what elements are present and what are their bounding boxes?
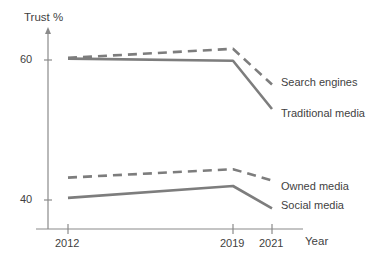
x-axis-tick-label-2012: 2012 [55,238,79,249]
y-axis [44,27,52,229]
x-axis-tick-label-2019: 2019 [220,238,244,249]
y-axis-tick-label-40: 40 [20,194,32,205]
series-line-owned-media [68,169,272,180]
x-axis-tick-label-2021: 2021 [259,238,283,249]
series-label-traditional-media: Traditional media [281,108,365,119]
series-line-social-media [68,186,272,208]
series-line-traditional-media [68,59,272,109]
series-line-search-engines [68,49,272,85]
y-axis-title: Trust % [24,12,63,24]
line-chart: Trust % 60 40 2012 2019 2021 Year Search… [0,0,368,265]
series-label-owned-media: Owned media [281,181,349,192]
series-label-search-engines: Search engines [281,77,357,88]
x-axis-title: Year [305,236,328,248]
series-label-social-media: Social media [281,200,344,211]
y-axis-tick-label-60: 60 [20,54,32,65]
x-axis [36,224,303,234]
chart-plot-area [0,0,368,265]
series-layer [68,49,272,209]
